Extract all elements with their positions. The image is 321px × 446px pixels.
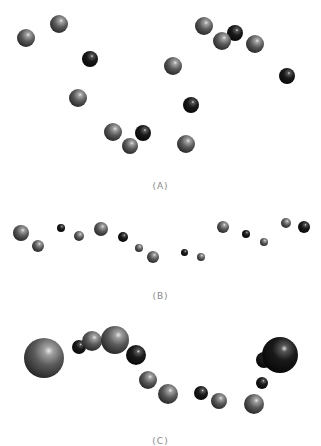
sphere-icon [118,232,128,242]
sphere-icon [50,15,68,33]
sphere-icon [262,337,298,373]
sphere-icon [122,138,138,154]
panel-b-label: (B) [0,291,321,301]
sphere-icon [181,249,188,256]
sphere-icon [158,384,178,404]
sphere-icon [197,253,205,261]
sphere-icon [126,345,146,365]
sphere-icon [17,29,35,47]
sphere-icon [82,51,98,67]
sphere-icon [57,224,65,232]
sphere-icon [104,123,122,141]
panel-c-label: (C) [0,436,321,446]
sphere-icon [24,338,64,378]
sphere-icon [183,97,199,113]
sphere-icon [32,240,44,252]
sphere-icon [82,331,102,351]
sphere-icon [244,394,264,414]
sphere-icon [195,17,213,35]
sphere-icon [69,89,87,107]
panel-a-label: (A) [0,181,321,191]
sphere-icon [260,238,268,246]
sphere-icon [74,231,84,241]
sphere-icon [256,377,268,389]
sphere-icon [211,393,227,409]
sphere-icon [279,68,295,84]
sphere-icon [281,218,291,228]
sphere-icon [217,221,229,233]
sphere-icon [13,225,29,241]
sphere-icon [298,221,310,233]
sphere-icon [101,326,129,354]
sphere-icon [194,386,208,400]
sphere-icon [147,251,159,263]
sphere-icon [164,57,182,75]
sphere-icon [242,230,250,238]
sphere-icon [246,35,264,53]
sphere-icon [213,32,231,50]
sphere-icon [135,244,143,252]
sphere-icon [139,371,157,389]
sphere-icon [177,135,195,153]
sphere-icon [135,125,151,141]
sphere-icon [94,222,108,236]
